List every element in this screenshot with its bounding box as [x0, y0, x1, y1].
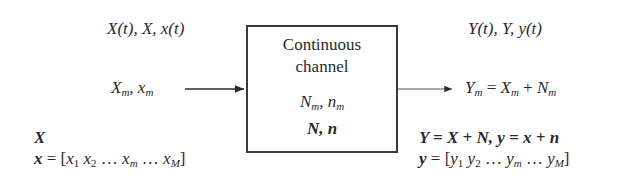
channel-label-line1: Continuous: [248, 35, 396, 55]
output-vector-def: y = [y1 y2 … ym … yM]: [419, 149, 570, 169]
channel-box: Continuous channel Nm, nm N, n: [246, 25, 398, 153]
input-signal-label: X(t), X, x(t): [107, 19, 184, 39]
input-vector-def: x = [x1 x2 … xm … xM]: [34, 149, 185, 169]
output-sample-eq: Ym = Xm + Nm: [465, 78, 556, 98]
input-vector-label: X: [34, 128, 45, 148]
channel-noise-vector: N, n: [248, 119, 396, 139]
channel-label-line2: channel: [248, 57, 396, 77]
input-sample-label: Xm, xm: [111, 78, 153, 98]
output-signal-label: Y(t), Y, y(t): [468, 19, 542, 39]
channel-noise-sample: Nm, nm: [248, 92, 396, 112]
output-vector-eq: Y = X + N, y = x + n: [419, 128, 559, 148]
